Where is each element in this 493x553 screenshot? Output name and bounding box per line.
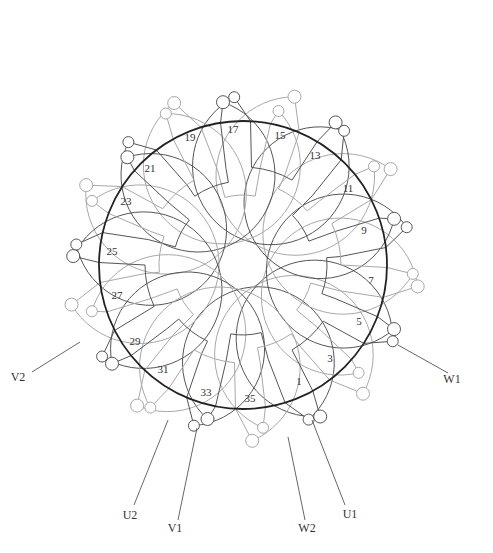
slot-label: 35 [245,392,257,404]
slot-label: 17 [228,123,240,135]
slot-label: 11 [343,182,354,194]
slot-label: 7 [368,274,374,286]
winding-diagram: 1357911131517192123252729313335 W1V2U2V1… [0,0,493,553]
terminal-label-u1: U1 [343,507,358,521]
slot-label: 5 [356,315,362,327]
slot-label: 13 [310,149,322,161]
slot-label: 25 [107,245,119,257]
slot-label: 21 [145,162,156,174]
slot-label: 27 [112,289,124,301]
terminal-label-v1: V1 [168,521,183,535]
slot-label: 3 [327,352,333,364]
slot-label: 31 [158,363,169,375]
terminal-label-v2: V2 [11,370,26,384]
phase-leads [32,342,448,520]
slot-label: 19 [185,131,197,143]
slot-label: 29 [130,335,142,347]
terminal-label-w2: W2 [298,521,315,535]
slot-label: 23 [121,195,133,207]
terminal-label-u2: U2 [123,508,138,522]
slot-label: 9 [361,224,367,236]
slot-label: 1 [296,375,302,387]
slot-label: 33 [201,386,213,398]
slot-label: 15 [275,129,287,141]
terminal-label-w1: W1 [443,372,460,386]
